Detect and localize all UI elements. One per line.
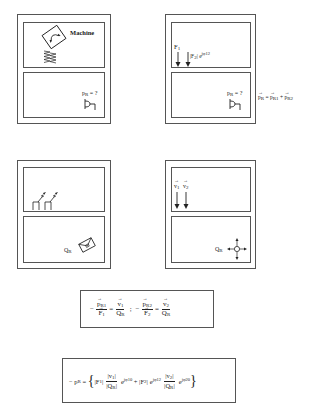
pressure-probe-icon bbox=[84, 99, 104, 111]
fraction-pr2-f2: pR2 F2 bbox=[142, 301, 153, 317]
pressure-probe-icon bbox=[229, 99, 249, 111]
pressure-unknown-label: pR = ? bbox=[227, 90, 242, 97]
equation-box-total-pressure: − pR = { |F1| |v1| |QR| ejφ10 + |F2| ejφ… bbox=[62, 358, 236, 403]
velocity1-arrow-icon bbox=[174, 192, 180, 210]
equation-box-ratios: − pR1 F1 = v1 QR ; − pR2 F2 = v2 QR bbox=[80, 290, 214, 328]
panel-velocity-source-bottom: QR bbox=[23, 216, 105, 263]
panel-forces: F1 |F2| ejφ12 pR = ? bbox=[165, 14, 256, 124]
volume-velocity-label: QR bbox=[64, 247, 72, 254]
pulsating-source-icon bbox=[227, 238, 247, 260]
force2-label: |F2| ejφ12 bbox=[190, 52, 210, 60]
fraction-v1-qr-magnitude: |v1| |QR| bbox=[105, 372, 118, 390]
panel-forces-top: F1 |F2| ejφ12 bbox=[171, 22, 251, 68]
superposition-equation: pR = pR1 + pR2 bbox=[258, 95, 293, 101]
panel-machine: Machine pR = ? bbox=[17, 14, 111, 124]
velocity1-label: v1 bbox=[174, 183, 180, 190]
force1-arrow-icon bbox=[175, 52, 181, 68]
velocity2-arrow-icon bbox=[183, 192, 189, 210]
velocity2-label: v2 bbox=[183, 183, 189, 190]
panel-forces-bottom: pR = ? bbox=[171, 72, 251, 118]
fraction-v2-qr-magnitude: |v2| |QR| bbox=[163, 372, 176, 390]
ratio-equation: − pR1 F1 = v1 QR ; − pR2 F2 = v2 QR bbox=[90, 297, 171, 321]
fraction-pr1-f1: pR1 F1 bbox=[96, 301, 107, 317]
shaker-icon bbox=[30, 190, 70, 210]
force1-label: F1 bbox=[174, 44, 180, 51]
machine-label: Machine bbox=[70, 30, 94, 37]
fraction-v1-qr: v1 QR bbox=[115, 301, 125, 317]
panel-machine-bottom: pR = ? bbox=[23, 72, 105, 118]
volume-velocity-label: QR bbox=[215, 246, 223, 253]
panel-velocities-bottom: QR bbox=[171, 216, 251, 263]
panel-velocity-source-top bbox=[23, 167, 105, 212]
panel-velocities-top: v1 v2 bbox=[171, 167, 251, 212]
panel-velocity-source: QR bbox=[17, 160, 111, 269]
panel-velocities: v1 v2 QR bbox=[165, 160, 256, 269]
fraction-v2-qr: v2 QR bbox=[161, 301, 171, 317]
panel-machine-top: Machine bbox=[23, 22, 105, 68]
pressure-unknown-label: pR = ? bbox=[82, 90, 97, 97]
total-pressure-equation: − pR = { |F1| |v1| |QR| ejφ10 + |F2| ejφ… bbox=[69, 368, 197, 394]
loudspeaker-icon bbox=[78, 237, 98, 253]
